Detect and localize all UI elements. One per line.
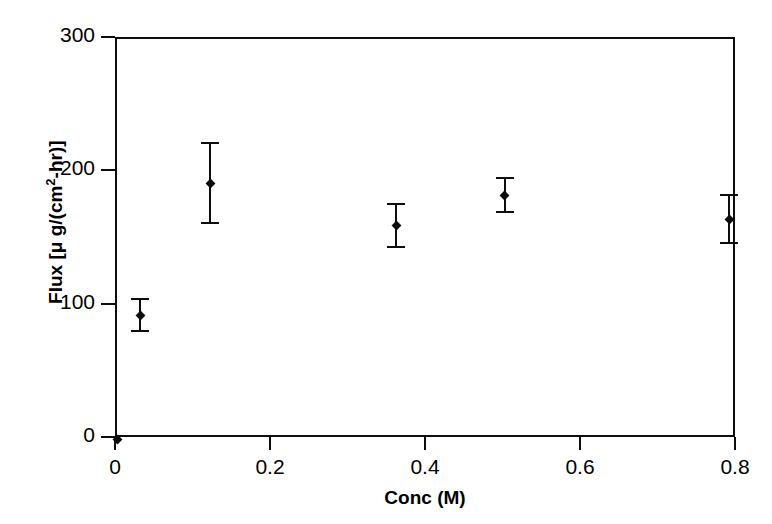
x-axis-title: Conc (M) <box>115 487 735 509</box>
data-marker <box>135 310 145 320</box>
y-axis-title-prefix: Flux [ <box>45 253 66 304</box>
error-bar-cap-lower <box>201 222 219 224</box>
x-tick-label: 0 <box>80 455 150 479</box>
plot-area <box>115 37 735 437</box>
error-bar-cap-upper <box>131 298 149 300</box>
y-tick-mark <box>101 36 115 38</box>
y-axis-title-suffix: -hr)] <box>45 140 66 178</box>
x-tick-label: 0.6 <box>545 455 615 479</box>
error-bar-cap-lower <box>131 330 149 332</box>
y-tick-mark <box>101 169 115 171</box>
data-marker <box>500 190 510 200</box>
chart-figure: 0100200300 00.20.40.60.8 Conc (M) Flux [… <box>0 0 772 524</box>
x-tick-mark <box>269 437 271 450</box>
x-tick-label: 0.8 <box>700 455 770 479</box>
error-bar-cap-upper <box>387 203 405 205</box>
x-tick-mark <box>424 437 426 450</box>
x-tick-label: 0.4 <box>390 455 460 479</box>
y-axis-title-mid: g/(cm <box>45 186 66 242</box>
error-bar-cap-lower <box>720 242 738 244</box>
error-bar-cap-lower <box>387 246 405 248</box>
y-axis-title: Flux [μ g/(cm2-hr)] <box>43 12 67 432</box>
data-marker <box>724 214 734 224</box>
error-bar-cap-upper <box>201 142 219 144</box>
error-bar-cap-upper <box>720 194 738 196</box>
mu-symbol: μ <box>45 242 66 254</box>
x-tick-label: 0.2 <box>235 455 305 479</box>
y-tick-mark <box>101 303 115 305</box>
error-bar-cap-upper <box>496 177 514 179</box>
x-tick-mark <box>579 437 581 450</box>
data-marker <box>391 221 401 231</box>
x-tick-mark <box>734 437 736 450</box>
error-bar-cap-lower <box>496 211 514 213</box>
data-marker <box>205 178 215 188</box>
y-axis-title-superscript: 2 <box>43 178 58 185</box>
